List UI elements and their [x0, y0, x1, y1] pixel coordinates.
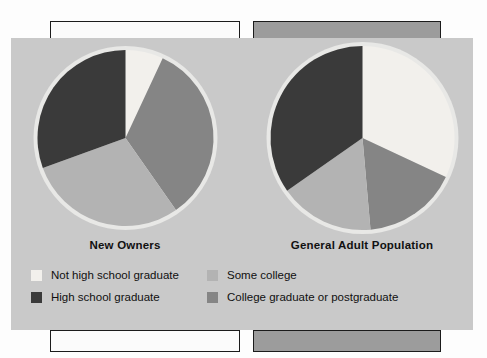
figure-page: New Owners General Adult Population Not … [0, 0, 487, 358]
legend: Not high school graduate High school gra… [11, 266, 473, 320]
legend-label: Some college [227, 269, 297, 281]
pie-svg-general-adult-population [255, 38, 470, 238]
legend-column-1: Not high school graduate High school gra… [31, 266, 231, 310]
background-panel-left-bottom [50, 330, 240, 352]
legend-swatch-not-high-school-graduate [31, 270, 42, 281]
legend-swatch-college-graduate-or-postgraduate [207, 292, 218, 303]
legend-label: College graduate or postgraduate [227, 291, 398, 303]
legend-item: Not high school graduate [31, 266, 231, 284]
pie-chart-new-owners: New Owners [14, 38, 236, 251]
pie-chart-general-adult-population: General Adult Population [251, 38, 473, 251]
legend-item: High school graduate [31, 288, 231, 306]
legend-swatch-high-school-graduate [31, 292, 42, 303]
chart-card: New Owners General Adult Population Not … [11, 38, 473, 330]
legend-item: Some college [207, 266, 457, 284]
pie-svg-new-owners [23, 38, 228, 238]
background-panel-right-bottom [253, 330, 441, 352]
pie-title-general-adult-population: General Adult Population [251, 239, 473, 251]
legend-column-2: Some college College graduate or postgra… [207, 266, 457, 310]
legend-label: Not high school graduate [51, 269, 179, 281]
legend-swatch-some-college [207, 270, 218, 281]
legend-label: High school graduate [51, 291, 160, 303]
pie-title-new-owners: New Owners [14, 239, 236, 251]
legend-item: College graduate or postgraduate [207, 288, 457, 306]
